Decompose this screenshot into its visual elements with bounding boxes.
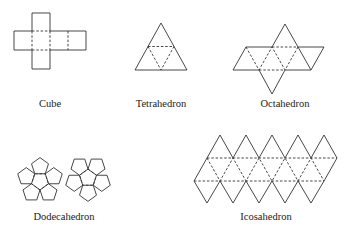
platonic-nets-figure: Cube Tetrahedron Octahedron Dodecahedron… (0, 0, 350, 234)
icosahedron-label: Icosahedron (240, 211, 292, 222)
dodecahedron-label: Dodecahedron (33, 211, 95, 222)
tetrahedron-label: Tetrahedron (136, 98, 187, 109)
icosahedron-net (194, 135, 337, 203)
tetrahedron-net (135, 23, 187, 70)
dodecahedron-net (18, 158, 110, 202)
octahedron-net (233, 24, 324, 94)
cube-net (14, 13, 86, 69)
cube-label: Cube (39, 98, 62, 109)
octahedron-label: Octahedron (261, 98, 311, 109)
